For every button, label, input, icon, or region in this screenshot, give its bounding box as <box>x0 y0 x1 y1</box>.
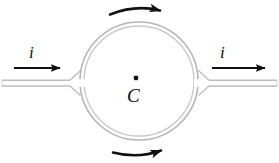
circulation-arrow-bottom <box>113 151 161 156</box>
outlet-junction-lower-flare <box>199 86 210 96</box>
center-point-label: C <box>127 86 140 105</box>
current-label-left: i <box>29 44 34 61</box>
current-label-right: i <box>220 44 225 61</box>
diagram-canvas <box>0 0 279 163</box>
inlet-junction-upper-flare <box>70 71 81 81</box>
inlet-pipe-left <box>2 71 81 96</box>
junction-opening-left <box>79 79 86 87</box>
center-point-dot <box>134 76 139 81</box>
tube-inner-wall <box>84 26 194 136</box>
circulation-arrow-top <box>110 8 160 14</box>
outlet-junction-upper-flare <box>199 71 210 81</box>
circular-tube-loop <box>80 22 198 140</box>
tube-outer-wall <box>80 22 198 140</box>
junction-opening-right <box>194 79 201 87</box>
physics-diagram-figure: i i C <box>0 0 279 163</box>
inlet-junction-lower-flare <box>70 86 81 96</box>
outlet-pipe-right <box>199 71 278 96</box>
